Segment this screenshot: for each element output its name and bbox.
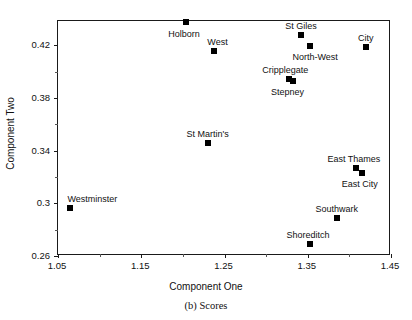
y-tick-label: 0.26 <box>32 250 51 261</box>
y-tick-label: 0.34 <box>32 144 51 155</box>
data-point <box>205 140 211 146</box>
x-tick <box>308 254 309 258</box>
x-tick <box>141 254 142 258</box>
y-tick <box>54 203 58 204</box>
scatter-plot-figure: Component One Component Two (b) Scores 1… <box>0 0 412 320</box>
y-tick <box>54 256 58 257</box>
data-point-label: City <box>358 33 374 43</box>
x-tick-label: 1.25 <box>214 260 233 271</box>
data-point <box>307 241 313 247</box>
x-tick <box>58 254 59 258</box>
data-point <box>298 32 304 38</box>
data-point-label: East Thames <box>327 154 380 164</box>
x-minor-tick <box>266 254 267 257</box>
x-tick-label: 1.05 <box>48 260 67 271</box>
data-point-label: Westminster <box>67 194 117 204</box>
data-point <box>290 78 296 84</box>
x-minor-tick <box>349 254 350 257</box>
y-tick <box>54 151 58 152</box>
data-point-label: East City <box>342 179 378 189</box>
y-tick <box>54 45 58 46</box>
data-point <box>359 170 365 176</box>
y-tick-label: 0.38 <box>32 92 51 103</box>
figure-caption: (b) Scores <box>0 300 412 311</box>
y-tick-label: 0.42 <box>32 39 51 50</box>
x-axis-label: Component One <box>0 281 412 292</box>
x-tick-label: 1.35 <box>298 260 317 271</box>
y-axis-label: Component Two <box>5 74 16 194</box>
data-point-label: Holborn <box>168 29 200 39</box>
data-point-label: Cripplegate <box>262 65 308 75</box>
data-point-label: West <box>207 37 227 47</box>
data-point-label: Stepney <box>271 87 304 97</box>
y-minor-tick <box>55 72 58 73</box>
x-minor-tick <box>183 254 184 257</box>
data-point-label: Shoreditch <box>287 230 330 240</box>
data-point-label: Southwark <box>315 204 358 214</box>
data-point <box>363 44 369 50</box>
y-minor-tick <box>55 177 58 178</box>
data-point-label: St Martin's <box>187 129 229 139</box>
data-point <box>211 48 217 54</box>
data-point <box>307 43 313 49</box>
x-tick-label: 1.15 <box>131 260 150 271</box>
x-tick-label: 1.45 <box>381 260 400 271</box>
y-tick-label: 0.3 <box>37 197 50 208</box>
x-minor-tick <box>100 254 101 257</box>
x-tick <box>391 254 392 258</box>
data-point <box>334 215 340 221</box>
data-point-label: North-West <box>292 52 337 62</box>
y-minor-tick <box>55 230 58 231</box>
data-point-label: St Giles <box>285 21 317 31</box>
data-point <box>183 19 189 25</box>
y-minor-tick <box>55 124 58 125</box>
x-tick <box>225 254 226 258</box>
data-point <box>67 205 73 211</box>
y-tick <box>54 98 58 99</box>
